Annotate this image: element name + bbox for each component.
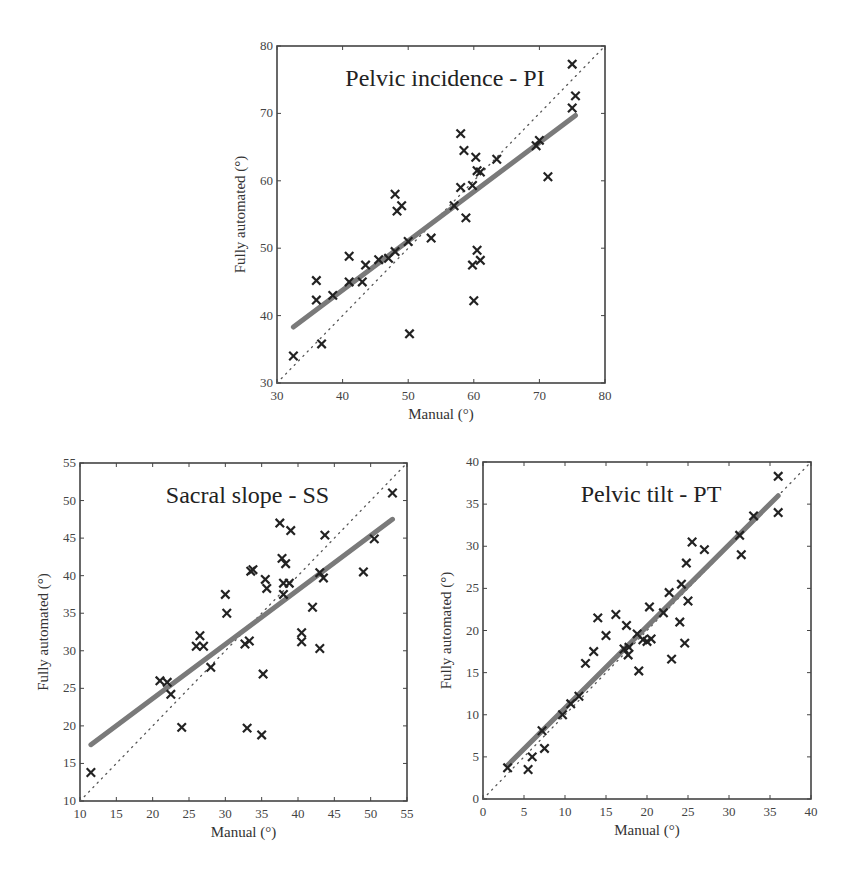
y-axis-label: Fully automated (°) [438,572,455,690]
x-marker-icon [602,631,610,639]
x-marker-icon [568,104,576,112]
x-marker-icon [460,146,468,154]
x-marker-icon [361,261,369,269]
x-marker-icon [472,153,480,161]
x-tick-label: 70 [533,388,546,403]
x-axis-label: Manual (°) [408,406,474,423]
y-tick-label: 10 [63,793,76,808]
x-tick-label: 60 [467,388,480,403]
x-tick-label: 30 [723,804,736,819]
x-marker-icon [257,731,265,739]
x-marker-icon [156,677,164,685]
x-marker-icon [297,629,305,637]
x-marker-icon [243,724,251,732]
x-tick-label: 0 [480,804,487,819]
y-tick-label: 35 [63,605,76,620]
y-tick-label: 5 [473,749,480,764]
x-tick-label: 50 [364,806,377,821]
x-marker-icon [207,663,215,671]
x-marker-icon [285,579,293,587]
x-marker-icon [667,655,675,663]
x-tick-label: 40 [336,388,349,403]
x-marker-icon [594,614,602,622]
y-tick-label: 25 [63,680,76,695]
x-marker-icon [316,644,324,652]
pelvic-incidence-plot: 304050607080304050607080Pelvic incidence… [232,38,612,423]
y-tick-label: 50 [63,493,76,508]
x-tick-label: 40 [805,804,818,819]
x-marker-icon [682,559,690,567]
x-marker-icon [427,234,435,242]
x-tick-label: 10 [559,804,572,819]
regression-line [91,519,393,744]
x-marker-icon [622,621,630,629]
x-tick-label: 15 [110,806,123,821]
x-marker-icon [581,659,589,667]
x-marker-icon [540,744,548,752]
y-tick-label: 80 [260,38,273,53]
x-marker-icon [774,472,782,480]
y-axis-label: Fully automated (°) [232,156,249,274]
x-marker-icon [276,519,284,527]
x-marker-icon [524,765,532,773]
y-tick-label: 40 [260,308,273,323]
x-marker-icon [493,155,501,163]
pelvic-tilt-plot: 05101520253035400510152025303540Pelvic t… [438,454,818,839]
x-tick-label: 20 [146,806,159,821]
x-marker-icon [391,190,399,198]
x-marker-icon [528,753,536,761]
x-tick-label: 15 [600,804,613,819]
y-tick-label: 0 [473,791,480,806]
x-marker-icon [568,60,576,68]
x-marker-icon [700,545,708,553]
y-tick-label: 45 [63,530,76,545]
sacral-slope-plot: 1015202530354045505510152025303540455055… [35,455,414,841]
y-tick-label: 15 [466,665,479,680]
x-marker-icon [590,647,598,655]
x-marker-icon [87,768,95,776]
x-marker-icon [312,276,320,284]
x-tick-label: 25 [682,804,695,819]
panel-title: Pelvic incidence - PI [345,65,544,91]
x-tick-label: 35 [255,806,268,821]
x-marker-icon [297,638,305,646]
x-marker-icon [196,632,204,640]
x-marker-icon [571,92,579,100]
y-tick-label: 20 [466,623,479,638]
y-tick-label: 40 [466,454,479,469]
x-marker-icon [178,723,186,731]
x-tick-label: 10 [74,806,87,821]
x-marker-icon [167,690,175,698]
x-marker-icon [359,568,367,576]
y-tick-label: 25 [466,580,479,595]
x-marker-icon [456,129,464,137]
y-tick-label: 60 [260,173,273,188]
y-tick-label: 35 [466,496,479,511]
y-tick-label: 15 [63,755,76,770]
y-tick-label: 30 [260,375,273,390]
figure: 304050607080304050607080Pelvic incidence… [0,0,851,877]
data-points [289,60,579,360]
x-marker-icon [388,489,396,497]
x-marker-icon [737,550,745,558]
x-marker-icon [456,183,464,191]
data-points [503,472,782,774]
x-marker-icon [645,603,653,611]
y-tick-label: 30 [466,538,479,553]
x-marker-icon [476,256,484,264]
x-marker-icon [308,603,316,611]
x-tick-label: 35 [764,804,777,819]
x-marker-icon [287,526,295,534]
x-marker-icon [473,246,481,254]
x-marker-icon [635,667,643,675]
x-marker-icon [681,639,689,647]
x-tick-label: 40 [292,806,305,821]
x-marker-icon [321,531,329,539]
x-marker-icon [245,637,253,645]
x-marker-icon [289,352,297,360]
y-tick-label: 70 [260,105,273,120]
x-marker-icon [677,580,685,588]
y-tick-label: 10 [466,707,479,722]
x-marker-icon [397,202,405,210]
x-marker-icon [263,584,271,592]
